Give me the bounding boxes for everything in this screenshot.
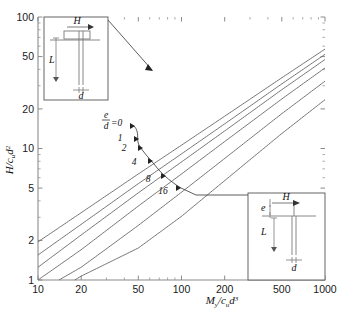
curve-label-2: 2	[122, 143, 127, 153]
e-over-d-denominator: d	[104, 121, 109, 131]
e-over-d-equals-zero: =0	[111, 118, 122, 128]
y-tick-label: 50	[22, 50, 34, 62]
chart-figure: HLdHeLd 1020501002005001000125102050100 …	[0, 0, 339, 332]
e-over-d-numerator: e	[104, 110, 108, 120]
y-axis-title-text: H/cud2	[3, 145, 17, 175]
inset-top-length-label: L	[48, 54, 55, 65]
y-tick-label: 5	[28, 182, 34, 194]
curve-label-16: 16	[158, 186, 168, 196]
y-tick-label: 2	[28, 234, 34, 246]
x-tick-label: 20	[75, 283, 87, 295]
curve-label-4: 4	[132, 157, 137, 167]
inset-bottom-right-box	[248, 193, 325, 280]
y-tick-label: 10	[22, 142, 34, 154]
x-d-exp: 3	[234, 295, 239, 303]
inset-bottom-eccentricity-label: e	[261, 202, 266, 213]
y-axis-title: H/cud2	[3, 145, 17, 175]
pile-cap	[64, 31, 90, 39]
inset-top-load-label: H	[72, 15, 81, 26]
y-tick-label: 20	[22, 103, 34, 115]
inset-bottom-length-label: L	[260, 226, 267, 237]
x-tick-label: 1000	[313, 283, 337, 295]
x-tick-label: 500	[273, 283, 291, 295]
x-tick-label: 50	[132, 283, 144, 295]
inset-bottom-load-label: H	[281, 191, 290, 202]
loglog-plot-svg: HLdHeLd 1020501002005001000125102050100 …	[0, 0, 339, 332]
y-tick-label: 100	[16, 11, 34, 23]
y-tick-label: 1	[28, 274, 34, 286]
y-d-exp: 2	[4, 145, 12, 149]
curve-label-8: 8	[146, 174, 151, 184]
x-tick-label: 100	[173, 283, 191, 295]
curve-label-1: 1	[118, 133, 123, 143]
